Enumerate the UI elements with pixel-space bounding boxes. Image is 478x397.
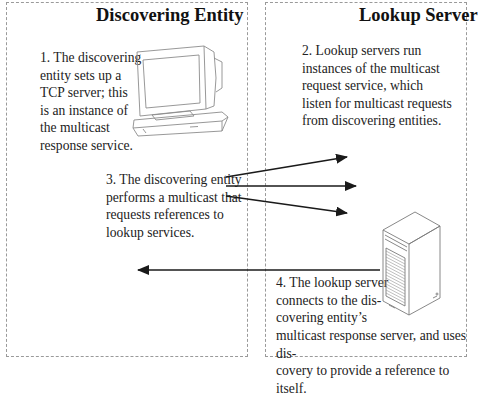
step-2-text: 2. Lookup servers run instances of the m…: [302, 42, 452, 130]
discovering-entity-title: Discovering Entity: [96, 5, 243, 26]
step-4-text-bottom: multicast response server, and uses dis-…: [276, 327, 470, 397]
step-1-text: 1. The discovering entity sets up a TCP …: [40, 49, 141, 155]
step-3-text: 3. The discovering entity performs a mul…: [106, 171, 242, 241]
step-4-text-top: 4. The lookup server connects to the dis…: [276, 274, 388, 327]
lookup-server-title: Lookup Server: [359, 5, 478, 26]
